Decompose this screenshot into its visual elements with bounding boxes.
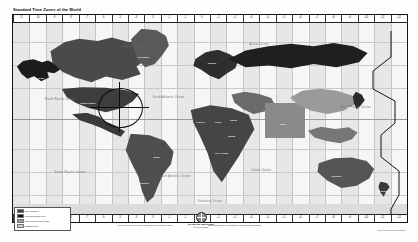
- ruler-offset-label: +2: [233, 216, 236, 219]
- ruler-offset-label: +2: [233, 16, 236, 19]
- region-label: Egypt: [230, 119, 237, 121]
- ruler-offset-label: +9: [348, 216, 351, 219]
- ruler-tick: [161, 15, 162, 22]
- ruler-tick: [177, 15, 178, 22]
- ocean-label: South Atlantic Ocean: [158, 174, 190, 177]
- ocean-label: North Atlantic Ocean: [153, 96, 185, 99]
- ruler-tick: [62, 15, 63, 22]
- region-label: United States: [80, 102, 95, 104]
- ruler-tick: [112, 215, 113, 222]
- region-label: Norway: [208, 62, 217, 64]
- ruler-tick: [95, 15, 96, 22]
- ruler-offset-label: -1: [184, 16, 186, 19]
- ruler-offset-label: -7: [86, 216, 88, 219]
- region-label: Russia: [285, 70, 293, 72]
- ruler-offset-label: +7: [315, 16, 318, 19]
- ruler-tick: [391, 215, 392, 222]
- ruler-tick: [276, 15, 277, 22]
- ruler-tick: [358, 215, 359, 222]
- ruler-offset-label: -4: [135, 16, 137, 19]
- legend-entry: Zone using half-hour offset: [17, 219, 69, 223]
- ruler-offset-label: +8: [332, 16, 335, 19]
- ruler-offset-label: +10: [364, 16, 368, 19]
- time-zone-map-page: Standard Time Zones of the World -11-10-…: [0, 0, 418, 242]
- ruler-offset-label: +11: [380, 16, 384, 19]
- legend-box: Zone boundary International Date Line Zo…: [14, 207, 71, 231]
- footnote-right: Some areas observe non-standard or seaso…: [208, 224, 261, 226]
- ruler-offset-label: +7: [315, 216, 318, 219]
- legend-label: Zone boundary: [25, 210, 39, 213]
- ruler-offset-label: -10: [36, 16, 39, 19]
- ruler-offset-label: +6: [299, 16, 302, 19]
- ruler-offset-label: -6: [102, 16, 104, 19]
- ruler-offset-label: +8: [332, 216, 335, 219]
- ruler-tick: [309, 215, 310, 222]
- ruler-tick: [13, 15, 14, 22]
- top-offset-ruler: -11-10-9-8-7-6-5-4-3-2-10+1+2+3+4+5+6+7+…: [13, 15, 407, 23]
- ruler-tick: [194, 15, 195, 22]
- ruler-offset-label: -4: [135, 216, 137, 219]
- region-label: Algeria: [196, 121, 204, 123]
- ruler-offset-label: -2: [168, 216, 170, 219]
- region-label: Mexico: [84, 123, 92, 125]
- ruler-tick: [161, 215, 162, 222]
- ocean-label: Arctic Ocean: [123, 44, 143, 47]
- ruler-tick: [29, 15, 30, 22]
- ruler-tick: [374, 15, 375, 22]
- ruler-offset-label: +4: [266, 216, 269, 219]
- ruler-tick: [177, 215, 178, 222]
- ruler-offset-label: +11: [380, 216, 384, 219]
- footnote-left: Time zones are referenced to Coordinated…: [118, 224, 173, 226]
- legend-swatch: [17, 219, 24, 223]
- region-label: Iceland: [176, 66, 184, 68]
- region-label: Sudan: [228, 135, 235, 137]
- ruler-tick: [243, 215, 244, 222]
- legend-swatch: [17, 224, 24, 228]
- ruler-offset-label: 0: [201, 16, 202, 19]
- ruler-offset-label: +3: [250, 216, 253, 219]
- ruler-offset-label: +1: [217, 16, 220, 19]
- ruler-tick: [144, 215, 145, 222]
- legend-swatch: [17, 209, 24, 213]
- region-label: China: [309, 112, 316, 114]
- ruler-tick: [341, 215, 342, 222]
- ruler-tick: [79, 215, 80, 222]
- ocean-label: Southern Ocean: [198, 199, 222, 202]
- region-label: Alaska: [37, 77, 45, 79]
- ocean-label: Indian Ocean: [251, 169, 271, 172]
- region-label: Brazil: [154, 156, 161, 158]
- circle-annotation[interactable]: [98, 88, 143, 128]
- region-label: Argentina: [137, 182, 148, 184]
- ruler-offset-label: -3: [151, 16, 153, 19]
- ruler-tick: [292, 215, 293, 222]
- ocean-label: South Pacific Ocean: [55, 170, 86, 173]
- parallel-line: [13, 195, 407, 196]
- ruler-tick: [226, 215, 227, 222]
- ruler-tick: [144, 15, 145, 22]
- ruler-offset-label: -9: [53, 16, 55, 19]
- legend-entry: International Date Line: [17, 214, 69, 218]
- ruler-tick: [292, 15, 293, 22]
- ruler-offset-label: +10: [364, 216, 368, 219]
- region-label: Indonesia: [315, 152, 326, 154]
- ruler-tick: [259, 15, 260, 22]
- page-title: Standard Time Zones of the World: [12, 7, 82, 13]
- map-frame: -11-10-9-8-7-6-5-4-3-2-10+1+2+3+4+5+6+7+…: [12, 14, 408, 223]
- region-label: Greenland: [137, 56, 149, 58]
- ruler-tick: [112, 15, 113, 22]
- ruler-offset-label: -11: [20, 16, 23, 19]
- scale-credit: Scale 1:80,000,000 at the Equator: [378, 229, 405, 231]
- map-body: Arctic OceanArctic OceanNorth Atlantic O…: [13, 23, 407, 214]
- region-label: D.R. Congo: [215, 152, 228, 154]
- ruler-tick: [358, 15, 359, 22]
- region-label: South Africa: [219, 181, 233, 183]
- ruler-tick: [391, 15, 392, 22]
- ruler-tick: [95, 215, 96, 222]
- legend-label: Zone using half-hour offset: [25, 220, 50, 223]
- ruler-offset-label: -3: [151, 216, 153, 219]
- ocean-label: North Pacific Ocean: [45, 98, 76, 101]
- ruler-offset-label: -5: [119, 16, 121, 19]
- ruler-tick: [226, 15, 227, 22]
- globe-icon: [196, 212, 207, 223]
- legend-entry: Zone boundary: [17, 209, 69, 213]
